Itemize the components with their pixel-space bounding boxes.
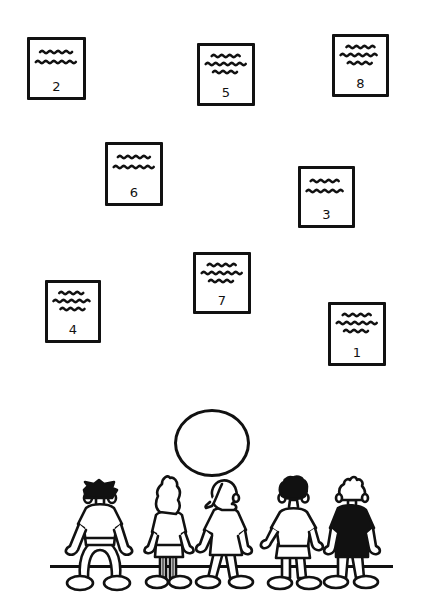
child-2: [144, 476, 193, 588]
child-5: [324, 477, 380, 588]
child-4: [261, 477, 323, 589]
illustration-scene: 25863741: [0, 0, 428, 603]
children-group: [0, 0, 428, 603]
child-3: [196, 480, 253, 588]
child-1: [66, 480, 132, 590]
